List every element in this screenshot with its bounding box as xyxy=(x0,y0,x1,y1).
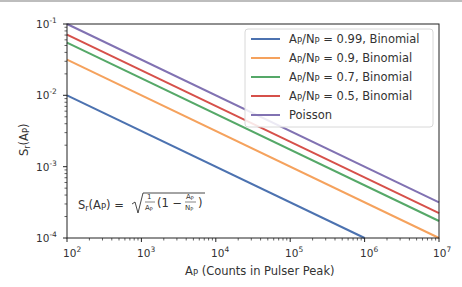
y-tick-label: 10-1 xyxy=(36,16,57,30)
svg-text:1: 1 xyxy=(147,193,151,201)
svg-text:(1 −: (1 − xyxy=(157,196,182,210)
svg-text:AP: AP xyxy=(145,204,153,212)
svg-text:AP: AP xyxy=(186,193,194,201)
x-tick-labels: 102 103 104 105 106 107 xyxy=(63,245,451,259)
svg-text:NP: NP xyxy=(185,204,193,212)
x-tick-label: 107 xyxy=(433,245,451,259)
svg-text:Poisson: Poisson xyxy=(289,108,332,122)
x-tick-label: 103 xyxy=(137,245,155,259)
legend: AP/NP = 0.99, Binomial AP/NP = 0.9, Bino… xyxy=(245,29,433,127)
y-axis-label: Sr(AP) xyxy=(17,123,32,156)
x-tick-label: 105 xyxy=(285,245,303,259)
svg-text:): ) xyxy=(198,196,203,210)
y-tick-labels: 10-1 10-2 10-3 10-4 xyxy=(36,16,57,244)
svg-text:AP/NP = 0.5, Binomial: AP/NP = 0.5, Binomial xyxy=(289,89,412,103)
svg-text:AP/NP = 0.9, Binomial: AP/NP = 0.9, Binomial xyxy=(289,51,412,65)
x-major-ticks xyxy=(67,238,439,242)
y-tick-label: 10-3 xyxy=(36,159,57,173)
x-axis-label: AP (Counts in Pulser Peak) xyxy=(185,264,335,278)
log-log-chart: 102 103 104 105 106 107 10-1 10-2 10-3 1… xyxy=(0,0,462,287)
x-tick-label: 102 xyxy=(63,245,81,259)
svg-text:Sr(AP) =: Sr(AP) = xyxy=(78,198,124,213)
y-major-ticks xyxy=(63,24,67,238)
svg-text:AP/NP = 0.99, Binomial: AP/NP = 0.99, Binomial xyxy=(289,32,420,46)
y-tick-label: 10-2 xyxy=(36,87,57,101)
formula-annotation: Sr(AP) = 1 AP (1 − AP NP ) xyxy=(78,193,205,213)
y-tick-label: 10-4 xyxy=(36,230,57,244)
svg-text:AP/NP = 0.7, Binomial: AP/NP = 0.7, Binomial xyxy=(289,70,412,84)
x-tick-label: 106 xyxy=(360,245,378,259)
x-tick-label: 104 xyxy=(211,245,229,259)
